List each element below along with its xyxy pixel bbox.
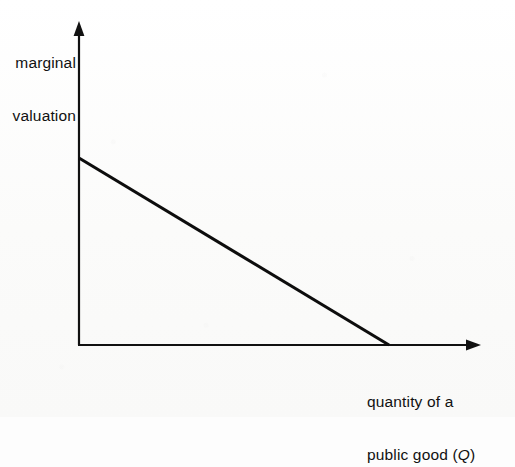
y-axis-label: marginal valuation (0, 19, 76, 159)
y-axis-label-line-2: valuation (0, 107, 76, 125)
x-axis-label-prefix: public good ( (367, 446, 458, 463)
x-axis-arrow-icon (466, 340, 481, 351)
y-axis-label-line-1: marginal (0, 54, 76, 72)
x-axis-label: quantity of a public good (Q) (367, 358, 475, 467)
x-axis-label-line-1: quantity of a (367, 393, 475, 411)
quantity-symbol: Q (458, 446, 470, 463)
x-axis-label-suffix: ) (470, 446, 475, 463)
x-axis-label-line-2: public good (Q) (367, 446, 475, 464)
marginal-valuation-curve (79, 158, 389, 345)
